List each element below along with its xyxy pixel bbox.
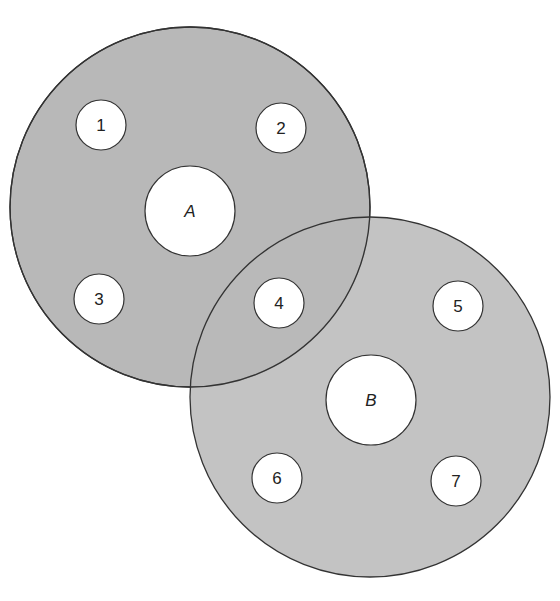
- core-a-label: A: [183, 202, 195, 221]
- node-5-label: 5: [453, 297, 462, 316]
- node-1-label: 1: [96, 116, 105, 135]
- node-4-label: 4: [274, 294, 283, 313]
- node-4: 4: [254, 278, 304, 328]
- node-3: 3: [74, 274, 124, 324]
- node-7-label: 7: [451, 472, 460, 491]
- node-7: 7: [431, 456, 481, 506]
- node-6: 6: [252, 453, 302, 503]
- core-a: A: [145, 166, 235, 256]
- core-b: B: [326, 355, 416, 445]
- node-3-label: 3: [94, 290, 103, 309]
- node-5: 5: [433, 281, 483, 331]
- node-6-label: 6: [272, 469, 281, 488]
- node-2: 2: [256, 103, 306, 153]
- venn-diagram: A B 1 2 3 4 5 6 7: [0, 0, 560, 601]
- node-1: 1: [76, 100, 126, 150]
- core-b-label: B: [365, 391, 376, 410]
- node-2-label: 2: [276, 119, 285, 138]
